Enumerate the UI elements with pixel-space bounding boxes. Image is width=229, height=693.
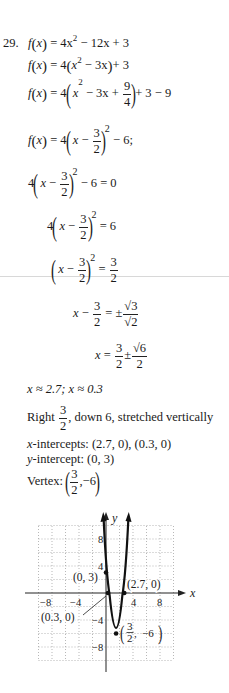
svg-text:4: 4 — [131, 597, 137, 608]
svg-text:−8: −8 — [92, 642, 103, 653]
axes — [25, 516, 182, 672]
curve-right-arrow-icon — [126, 512, 132, 522]
svg-text:8: 8 — [98, 534, 103, 545]
leader-line — [83, 596, 106, 615]
svg-text:−4: −4 — [92, 615, 104, 626]
svg-text:2: 2 — [127, 632, 133, 644]
svg-text:): ) — [158, 621, 162, 646]
svg-text:−6: −6 — [142, 627, 154, 639]
svg-text:(0.3, 0): (0.3, 0) — [41, 611, 75, 624]
point-y-intercept — [104, 570, 109, 575]
vertex-label: ( 3 2 , −6 ) — [120, 620, 162, 646]
point-x-intercept-2.7 — [122, 591, 127, 596]
svg-text:8: 8 — [157, 597, 162, 608]
y-axis-label: y — [111, 511, 118, 525]
x-axis-label: x — [189, 586, 196, 600]
svg-text:(2.7, 0): (2.7, 0) — [127, 578, 161, 591]
svg-text:−8: −8 — [40, 597, 51, 608]
svg-text:3: 3 — [127, 620, 133, 632]
svg-text:4: 4 — [98, 561, 104, 572]
svg-text:−4: −4 — [70, 597, 82, 608]
x-axis-arrow-icon — [178, 590, 186, 596]
svg-text:,: , — [134, 627, 137, 639]
point-vertex — [114, 631, 119, 636]
svg-text:(0, 3): (0, 3) — [73, 571, 98, 584]
svg-text:(: ( — [120, 621, 124, 646]
point-x-intercept-0.3 — [106, 591, 111, 596]
parabola-graph: x y −8 −4 4 8 8 4 −4 −8 (0, 3) (2.7, 0) … — [0, 0, 229, 693]
